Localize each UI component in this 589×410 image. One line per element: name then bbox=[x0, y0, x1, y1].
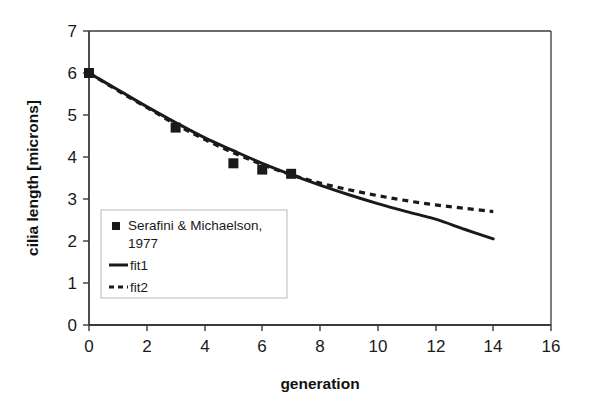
legend-label-observed-line2: 1977 bbox=[128, 236, 158, 251]
data-point-marker bbox=[228, 158, 238, 168]
x-tick-label: 10 bbox=[369, 337, 388, 356]
legend-label-fit2: fit2 bbox=[130, 280, 148, 295]
x-tick-label: 8 bbox=[315, 337, 324, 356]
y-tick-label: 7 bbox=[68, 22, 77, 41]
legend-label-fit1: fit1 bbox=[130, 258, 148, 273]
legend-label-observed-line1: Serafini & Michaelson, bbox=[128, 218, 262, 233]
y-tick-label: 2 bbox=[68, 232, 77, 251]
y-tick-label: 3 bbox=[68, 190, 77, 209]
y-tick-label: 4 bbox=[68, 148, 77, 167]
y-tick-label: 0 bbox=[68, 316, 77, 335]
x-tick-label: 2 bbox=[142, 337, 151, 356]
legend: Serafini & Michaelson, 1977 fit1 fit2 bbox=[101, 210, 287, 298]
x-tick-label: 0 bbox=[84, 337, 93, 356]
y-tick-label: 5 bbox=[68, 106, 77, 125]
x-tick-label: 12 bbox=[427, 337, 446, 356]
chart-figure: 0 1 2 3 4 5 6 7 0 2 4 6 8 10 12 14 16 ge… bbox=[0, 0, 589, 410]
x-tick-label: 16 bbox=[542, 337, 561, 356]
chart-canvas: 0 1 2 3 4 5 6 7 0 2 4 6 8 10 12 14 16 ge… bbox=[0, 0, 589, 410]
y-axis-title: cilia length [microns] bbox=[24, 100, 41, 256]
legend-marker-square-icon bbox=[112, 222, 120, 230]
data-point-marker bbox=[171, 123, 181, 133]
x-tick-label: 4 bbox=[200, 337, 209, 356]
data-point-marker bbox=[84, 68, 94, 78]
data-point-marker bbox=[286, 169, 296, 179]
y-tick-label: 6 bbox=[68, 64, 77, 83]
x-tick-label: 6 bbox=[257, 337, 266, 356]
data-point-marker bbox=[257, 165, 267, 175]
x-tick-labels: 0 2 4 6 8 10 12 14 16 bbox=[84, 337, 560, 356]
y-tick-labels: 0 1 2 3 4 5 6 7 bbox=[68, 22, 77, 335]
x-axis-title: generation bbox=[280, 375, 359, 392]
x-tick-label: 14 bbox=[484, 337, 503, 356]
y-tick-label: 1 bbox=[68, 274, 77, 293]
